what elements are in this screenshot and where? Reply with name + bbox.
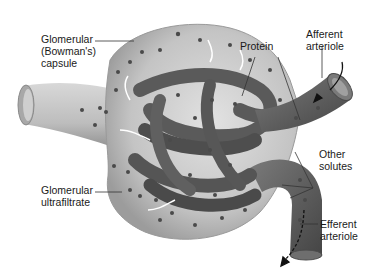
label-line: Protein xyxy=(240,40,273,52)
label-line: Efferent xyxy=(320,218,358,230)
label-line: arteriole xyxy=(320,230,358,242)
label-glomerular-capsule: Glomerular (Bowman's) capsule xyxy=(41,33,96,69)
label-line: Afferent xyxy=(306,28,344,40)
label-line: (Bowman's) xyxy=(41,45,96,57)
label-protein: Protein xyxy=(240,40,273,52)
label-line: Other xyxy=(319,148,352,160)
label-efferent-arteriole: Efferent arteriole xyxy=(320,218,358,242)
label-line: Glomerular xyxy=(41,184,93,196)
label-glomerular-ultrafiltrate: Glomerular ultrafiltrate xyxy=(41,184,93,208)
label-line: ultrafiltrate xyxy=(41,196,93,208)
label-other-solutes: Other solutes xyxy=(319,148,352,172)
label-line: solutes xyxy=(319,160,352,172)
label-line: capsule xyxy=(41,57,96,69)
label-line: arteriole xyxy=(306,40,344,52)
label-line: Glomerular xyxy=(41,33,96,45)
glomerulus-diagram: Glomerular (Bowman's) capsule Protein Af… xyxy=(0,0,374,277)
label-afferent-arteriole: Afferent arteriole xyxy=(306,28,344,52)
